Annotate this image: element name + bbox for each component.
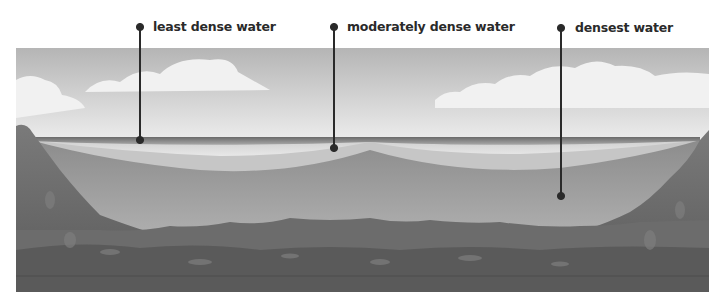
lake-floor-dark	[16, 244, 709, 292]
label-moderately-dense-water: moderately dense water	[347, 19, 515, 34]
label-densest-water: densest water	[575, 20, 673, 35]
label-least-dense-water: least dense water	[153, 19, 276, 34]
lake-density-diagram	[0, 0, 725, 306]
